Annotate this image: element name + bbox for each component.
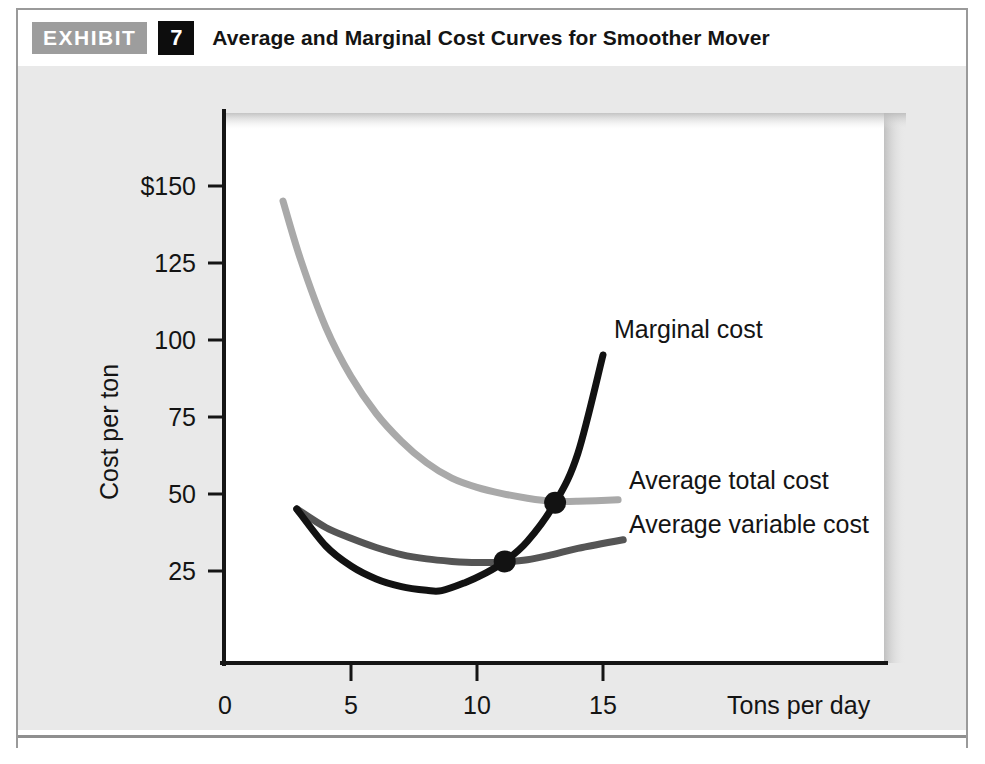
x-tick-label-10: 10 <box>463 691 491 719</box>
average-variable-cost-label: Average variable cost <box>629 510 869 538</box>
average-total-cost-label: Average total cost <box>629 466 829 494</box>
y-tick-label-150: $150 <box>140 172 196 200</box>
y-tick-label-100: 100 <box>154 326 196 354</box>
y-tick-label-75: 75 <box>168 403 196 431</box>
intersection-dot-mc-atc <box>544 492 566 514</box>
plot-area <box>224 113 884 663</box>
chart-svg: $150 125 100 75 50 25 Cost per ton 0 5 1… <box>0 0 985 764</box>
plot-shadow-right <box>884 113 906 663</box>
cost-curves-chart: $150 125 100 75 50 25 Cost per ton 0 5 1… <box>0 0 985 764</box>
plot-shadow-corner <box>884 113 906 129</box>
plot-shadow-top <box>224 113 884 129</box>
exhibit-page: EXHIBIT 7 Average and Marginal Cost Curv… <box>0 0 985 764</box>
y-tick-label-50: 50 <box>168 480 196 508</box>
marginal-cost-label: Marginal cost <box>614 315 763 343</box>
y-axis-title: Cost per ton <box>95 364 123 500</box>
x-axis-title: Tons per day <box>727 691 871 719</box>
y-tick-label-25: 25 <box>168 557 196 585</box>
x-tick-label-15: 15 <box>589 691 617 719</box>
x-tick-label-5: 5 <box>344 691 358 719</box>
intersection-dot-mc-avc <box>494 550 516 572</box>
x-tick-label-0: 0 <box>218 691 232 719</box>
y-tick-label-125: 125 <box>154 249 196 277</box>
